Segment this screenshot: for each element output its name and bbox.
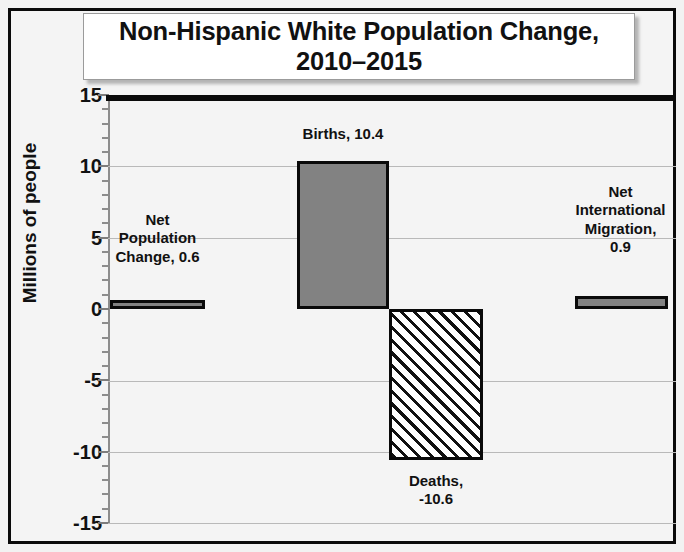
bar-births[interactable] [297,161,389,309]
gridline-neg15 [108,523,676,524]
chart-title-line1: Non-Hispanic White Population Change, [119,17,599,45]
chart-root: Non-Hispanic White Population Change,201… [0,0,684,552]
bar-net-international-migration[interactable] [575,296,668,309]
bar-label-net-population-change: Net Population Change, 0.6 [110,211,205,266]
chart-title-box: Non-Hispanic White Population Change,201… [83,13,635,80]
y-tick-label-neg5: -5 [42,369,102,392]
y-tick-label-15: 15 [42,84,102,107]
zero-axis-line [106,95,676,101]
plot-area: Net Population Change, 0.6 Births, 10.4 … [108,95,676,523]
chart-title-line2: 2010–2015 [296,47,422,75]
y-tick-label-neg15: -15 [42,512,102,535]
bar-net-population-change[interactable] [110,300,205,309]
y-tick-label-0: 0 [42,298,102,321]
bar-label-births: Births, 10.4 [268,125,418,143]
gridline-10 [108,166,676,167]
bar-deaths[interactable] [389,309,483,460]
y-axis-tick-labels: 15 10 5 0 -5 -10 -15 [24,0,102,552]
y-tick-label-10: 10 [42,155,102,178]
bar-label-net-international-migration: Net International Migration, 0.9 [565,183,676,256]
chart-title: Non-Hispanic White Population Change,201… [113,17,605,75]
y-tick-label-neg10: -10 [42,441,102,464]
y-tick-label-5: 5 [42,227,102,250]
bar-label-deaths: Deaths, -10.6 [379,472,493,509]
